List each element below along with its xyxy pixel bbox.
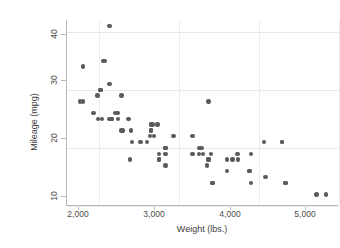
data-point <box>210 181 214 185</box>
data-point <box>206 157 210 161</box>
data-point <box>78 99 82 103</box>
gridline-horizontal <box>67 32 340 33</box>
data-point <box>280 140 284 144</box>
data-point <box>249 152 253 156</box>
gridline-horizontal <box>67 90 340 91</box>
data-point <box>206 99 210 103</box>
data-point <box>230 157 234 161</box>
data-point <box>110 117 114 121</box>
data-point <box>157 157 161 161</box>
data-point <box>314 192 318 196</box>
plot-canvas <box>67 20 338 205</box>
data-point <box>101 59 105 63</box>
data-point <box>116 117 120 121</box>
gridline-vertical <box>259 20 260 205</box>
data-point <box>247 169 251 173</box>
data-point <box>152 134 156 138</box>
data-point <box>91 111 95 115</box>
data-point <box>163 152 167 156</box>
data-point <box>263 175 267 179</box>
data-point <box>149 128 153 132</box>
data-point <box>163 163 167 167</box>
data-point <box>163 146 167 150</box>
data-point <box>98 88 102 92</box>
data-point <box>126 117 130 121</box>
data-point <box>128 157 132 161</box>
data-point <box>249 181 253 185</box>
data-point <box>100 117 104 121</box>
data-point <box>225 169 229 173</box>
data-point <box>81 64 85 68</box>
data-point <box>190 152 194 156</box>
data-point <box>107 82 111 86</box>
data-point <box>190 134 194 138</box>
data-point <box>209 152 213 156</box>
data-point <box>145 140 149 144</box>
gridline-horizontal <box>67 206 340 207</box>
plot-area <box>66 20 338 206</box>
data-point <box>107 24 111 28</box>
data-point <box>149 122 153 126</box>
data-point <box>157 152 161 156</box>
data-point <box>121 128 125 132</box>
x-axis-title: Weight (lbs.) <box>177 224 227 234</box>
data-point <box>225 157 229 161</box>
y-axis-title: Mileage (mpg) <box>29 93 39 151</box>
gridline-vertical <box>99 20 100 205</box>
data-point <box>130 140 134 144</box>
data-point <box>235 152 239 156</box>
gridline-vertical <box>179 20 180 205</box>
data-point <box>95 93 99 97</box>
data-point <box>283 181 287 185</box>
data-point <box>129 128 133 132</box>
data-point <box>201 152 205 156</box>
data-point <box>119 93 123 97</box>
data-point <box>262 140 266 144</box>
data-point <box>205 163 209 167</box>
data-point <box>155 122 159 126</box>
data-point <box>199 146 203 150</box>
graph-region: 40 30 20 10 2,000 3,000 4,000 5,000 Mile… <box>20 6 320 238</box>
data-point <box>236 157 240 161</box>
data-point <box>197 152 201 156</box>
data-point <box>138 140 142 144</box>
data-point <box>324 192 328 196</box>
data-point <box>171 134 175 138</box>
